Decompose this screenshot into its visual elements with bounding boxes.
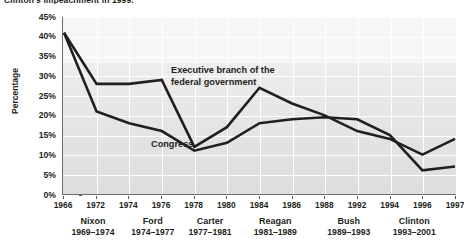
president-name: Bush <box>327 216 370 227</box>
series-line-executive-branch <box>64 33 455 155</box>
x-tick-label: 1992 <box>348 200 367 210</box>
y-tick-mark <box>79 195 82 196</box>
x-tick-mark <box>422 196 423 199</box>
president-term-nixon: Nixon1969–1974 <box>71 216 114 237</box>
x-tick-mark <box>259 196 260 199</box>
president-name: Clinton <box>393 216 436 227</box>
x-tick-label: 1978 <box>184 200 203 210</box>
y-tick-label: 25% <box>26 92 56 101</box>
president-name: Ford <box>131 216 174 227</box>
president-term-carter: Carter1977–1981 <box>188 216 231 237</box>
president-years: 1989–1993 <box>327 227 370 237</box>
x-tick-label: 1984 <box>250 200 269 210</box>
x-tick-label: 1976 <box>152 200 171 210</box>
y-tick-label: 45% <box>26 13 56 22</box>
president-years: 1969–1974 <box>71 227 114 237</box>
y-tick-label: 40% <box>26 32 56 41</box>
x-tick-label: 1966 <box>54 200 73 210</box>
x-tick-mark <box>357 196 358 199</box>
x-tick-label: 1994 <box>380 200 399 210</box>
y-tick-label: 15% <box>26 131 56 140</box>
x-tick-mark <box>390 196 391 199</box>
x-tick-label: 1986 <box>282 200 301 210</box>
president-name: Nixon <box>71 216 114 227</box>
x-tick-mark <box>96 196 97 199</box>
y-tick-label: 35% <box>26 52 56 61</box>
vertical-gridline <box>456 17 457 194</box>
y-tick-label: 20% <box>26 111 56 120</box>
y-tick-label: 10% <box>26 151 56 160</box>
president-name: Reagan <box>254 216 297 227</box>
y-tick-label: 5% <box>26 171 56 180</box>
president-years: 1981–1989 <box>254 227 297 237</box>
y-axis-title: Percentage <box>10 51 20 131</box>
president-name: Carter <box>188 216 231 227</box>
series-label-congress: Congress <box>151 139 193 151</box>
y-axis-tick-labels: 45%40%35%30%25%20%15%10%5%0% <box>22 0 56 250</box>
plot-area: Executive branch of the federal governme… <box>62 17 456 195</box>
y-tick-label: 30% <box>26 72 56 81</box>
president-years: 1977–1981 <box>188 227 231 237</box>
x-tick-label: 1974 <box>119 200 138 210</box>
x-tick-mark <box>292 196 293 199</box>
president-term-reagan: Reagan1981–1989 <box>254 216 297 237</box>
x-tick-mark <box>161 196 162 199</box>
president-years: 1993–2001 <box>393 227 436 237</box>
x-tick-label: 1972 <box>86 200 105 210</box>
president-term-ford: Ford1974–1977 <box>131 216 174 237</box>
chart-figure: Clinton's impeachment in 1999. Percentag… <box>0 0 464 250</box>
x-tick-mark <box>226 196 227 199</box>
series-lines <box>63 17 456 194</box>
president-term-clinton: Clinton1993–2001 <box>393 216 436 237</box>
series-line-congress <box>64 33 455 171</box>
x-tick-mark <box>324 196 325 199</box>
x-tick-label: 1980 <box>217 200 236 210</box>
president-years: 1974–1977 <box>131 227 174 237</box>
y-tick-label: 0% <box>26 191 56 200</box>
x-tick-mark <box>455 196 456 199</box>
x-tick-mark <box>128 196 129 199</box>
x-tick-label: 1996 <box>413 200 432 210</box>
series-label-executive-branch: Executive branch of the federal governme… <box>171 65 275 88</box>
x-tick-label: 1988 <box>315 200 334 210</box>
x-tick-mark <box>63 196 64 199</box>
x-tick-label: 1997 <box>446 200 464 210</box>
x-tick-mark <box>194 196 195 199</box>
president-term-bush: Bush1989–1993 <box>327 216 370 237</box>
